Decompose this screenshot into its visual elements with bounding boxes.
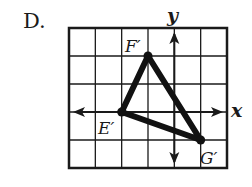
- grid-lines: [69, 28, 227, 168]
- y-axis-label: y: [166, 4, 180, 26]
- vertex-e: [117, 108, 126, 117]
- vertex-label-e: E′: [97, 118, 114, 138]
- x-axis-label: x: [230, 99, 243, 121]
- vertex-g: [196, 136, 205, 145]
- vertex-label-f: F′: [124, 36, 141, 56]
- coordinate-grid: x y F′ E′ G′: [0, 0, 252, 187]
- triangle: [122, 56, 201, 140]
- vertex-f: [144, 52, 153, 61]
- vertex-label-g: G′: [200, 148, 218, 168]
